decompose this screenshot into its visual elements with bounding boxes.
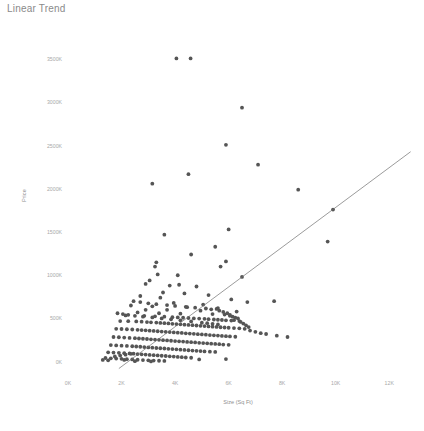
data-point [133, 336, 137, 340]
data-point [216, 318, 220, 322]
data-point [117, 335, 121, 339]
data-point [145, 337, 149, 341]
data-point [158, 346, 162, 350]
data-point [179, 348, 183, 352]
x-tick-label: 2K [118, 380, 125, 386]
data-point [286, 335, 290, 339]
data-point [168, 284, 172, 288]
data-point [161, 338, 165, 342]
data-point [200, 321, 204, 325]
data-point [120, 327, 124, 331]
data-point [185, 340, 189, 344]
data-point [184, 356, 188, 360]
data-point [213, 350, 217, 354]
data-point [124, 353, 128, 357]
data-point [162, 359, 166, 363]
data-point [187, 323, 191, 327]
data-point [211, 322, 215, 326]
data-point [188, 332, 192, 336]
data-point [176, 355, 180, 359]
data-point [150, 304, 154, 308]
data-point [236, 317, 240, 321]
data-point [148, 279, 152, 283]
data-point [154, 346, 158, 350]
data-point [213, 342, 217, 346]
data-point [137, 337, 141, 341]
data-point [136, 310, 140, 314]
data-point [205, 321, 209, 325]
data-point [156, 272, 160, 276]
data-point [160, 330, 164, 334]
data-point [187, 348, 191, 352]
data-point [212, 333, 216, 337]
data-point [133, 359, 137, 363]
data-point [176, 273, 180, 277]
data-point [160, 317, 164, 321]
data-point [157, 359, 161, 363]
data-point [173, 304, 177, 308]
x-axis-label: Size (Sq Ft) [223, 399, 253, 405]
data-point [296, 188, 300, 192]
data-point [192, 332, 196, 336]
data-point [204, 307, 208, 311]
x-tick-label: 10K [331, 380, 341, 386]
data-point [239, 320, 243, 324]
y-tick-label: 1500K [47, 229, 63, 235]
data-point [179, 312, 183, 316]
data-point [195, 285, 199, 289]
data-point [144, 328, 148, 332]
data-point [193, 341, 197, 345]
y-tick-label: 0K [56, 359, 63, 365]
data-point [126, 313, 130, 317]
data-point [207, 293, 211, 297]
data-point [183, 323, 187, 327]
data-point [128, 336, 132, 340]
data-point [154, 260, 158, 264]
data-point [114, 327, 118, 331]
data-point [177, 339, 181, 343]
data-point [177, 283, 181, 287]
data-point [169, 339, 173, 343]
data-point [196, 332, 200, 336]
data-point [101, 358, 105, 362]
y-tick-label: 2000K [47, 186, 63, 192]
data-point [197, 358, 201, 362]
data-point [140, 328, 144, 332]
data-point [118, 354, 122, 358]
data-point [106, 358, 110, 362]
trend-line-path [119, 152, 411, 369]
data-point [211, 312, 215, 316]
data-point [112, 351, 116, 355]
data-point [272, 299, 276, 303]
data-point [208, 333, 212, 337]
data-point [154, 302, 158, 306]
data-point [232, 326, 236, 330]
data-point [150, 182, 154, 186]
data-point [122, 336, 126, 340]
data-point [221, 310, 225, 314]
data-point [191, 349, 195, 353]
x-tick-label: 8K [279, 380, 286, 386]
data-point [175, 57, 179, 61]
data-point [153, 265, 157, 269]
x-tick-label: 0K [65, 380, 72, 386]
data-point [133, 314, 137, 318]
data-point [129, 304, 133, 308]
data-point [149, 360, 153, 364]
data-point [189, 57, 193, 61]
data-point [118, 319, 122, 323]
data-point [204, 333, 208, 337]
data-point [192, 317, 196, 321]
y-tick-label: 2500K [47, 143, 63, 149]
data-point [144, 353, 148, 357]
data-point [245, 300, 249, 304]
data-point [136, 328, 140, 332]
data-point [243, 327, 247, 331]
data-point [193, 306, 197, 310]
data-point [175, 347, 179, 351]
data-point [229, 298, 233, 302]
data-point [247, 325, 251, 329]
data-point [213, 245, 217, 249]
data-point [158, 321, 162, 325]
data-point [205, 341, 209, 345]
